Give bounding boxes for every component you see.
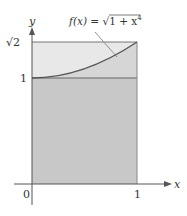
y-axis-arrow-icon — [29, 27, 35, 35]
x-axis-arrow-icon — [164, 181, 172, 187]
lower-rectangle — [32, 78, 137, 184]
diagram-canvas: y x √2 1 0 1 f(x) = √1 + x4 — [0, 0, 187, 216]
x-tick-0: 0 — [23, 188, 30, 201]
y-tick-sqrt2: √2 — [6, 36, 20, 49]
x-tick-1: 1 — [134, 188, 141, 201]
y-axis-label: y — [28, 15, 36, 28]
function-label-prefix: f(x) = — [68, 15, 102, 27]
function-label: f(x) = √1 + x4 — [68, 14, 142, 27]
function-label-radicand: 1 + x — [109, 15, 137, 27]
x-axis-label: x — [174, 178, 181, 191]
y-tick-1: 1 — [20, 72, 27, 85]
